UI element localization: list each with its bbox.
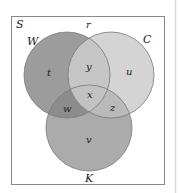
- universe-label: S: [16, 18, 24, 31]
- venn-diagram: S r W C K t u y x w z v: [0, 0, 179, 193]
- region-label-u: u: [126, 66, 132, 77]
- region-label-w: w: [63, 103, 72, 114]
- region-label-y: y: [85, 61, 92, 72]
- region-label-x: x: [87, 89, 93, 100]
- set-label-c: C: [143, 33, 152, 46]
- region-label-v: v: [86, 134, 92, 145]
- region-label-z: z: [109, 102, 116, 113]
- set-label-w: W: [27, 35, 40, 48]
- set-label-k: K: [84, 172, 94, 185]
